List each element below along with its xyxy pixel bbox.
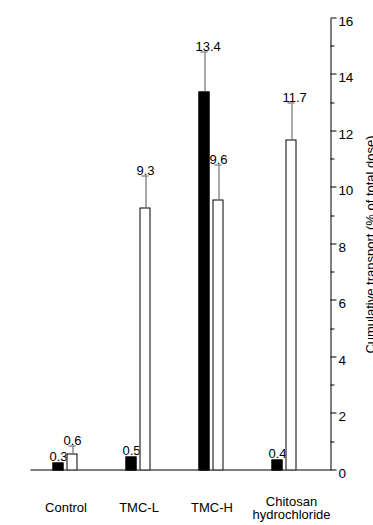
axis-tick-label: 14	[338, 70, 353, 85]
axis-tick	[330, 299, 336, 300]
axis-tick-label: 10	[338, 183, 353, 198]
error-bar	[204, 52, 205, 92]
axis-tick	[330, 73, 336, 74]
axis-minor-tick	[330, 271, 334, 272]
bar-open	[212, 199, 223, 470]
bar-value-label: 0.3	[49, 448, 67, 463]
axis-tick-label: 2	[338, 409, 345, 424]
axis-tick	[330, 469, 336, 470]
axis-minor-tick	[330, 384, 334, 385]
bar-value-label: 9.3	[136, 162, 154, 177]
figure-caption: Figure 16Effect of 0.5% (w/v) concentrat…	[347, 519, 371, 525]
figure-page: 0246810121416 Cumulative transport (% of…	[0, 0, 373, 525]
axis-tick-label: 0	[338, 465, 345, 480]
bar-filled	[125, 456, 136, 470]
bar-value-label: 13.4	[195, 38, 220, 53]
bar-value-label: 9.6	[209, 151, 227, 166]
error-bar	[218, 165, 219, 199]
value-axis-title: Cumulative transport (% of total dose)	[362, 18, 373, 470]
bar-group: 13.49.6TMC-H	[180, 8, 253, 470]
axis-minor-tick	[330, 328, 334, 329]
bar-value-label: 0.5	[122, 442, 140, 457]
bar-open	[66, 453, 77, 470]
axis-tick	[330, 186, 336, 187]
bar-value-label: 0.4	[268, 445, 286, 460]
error-bar	[291, 103, 292, 140]
axis-tick-label: 4	[338, 352, 345, 367]
axis-tick-label: 8	[338, 239, 345, 254]
axis-tick	[330, 130, 336, 131]
axis-tick	[330, 243, 336, 244]
axis-minor-tick	[330, 102, 334, 103]
bar-group: 0.30.6Control	[34, 8, 107, 470]
error-bar	[145, 176, 146, 207]
category-label: Chitosanhydrochloride	[236, 494, 346, 520]
axis-minor-tick	[330, 45, 334, 46]
bar-filled	[198, 91, 209, 470]
axis-minor-tick	[330, 158, 334, 159]
bar-chart-plot-area: 0246810121416 Cumulative transport (% of…	[0, 0, 373, 525]
axis-tick	[330, 17, 336, 18]
bar-value-label: 0.6	[63, 432, 81, 447]
axis-minor-tick	[330, 215, 334, 216]
axis-minor-tick	[330, 441, 334, 442]
axis-tick-label: 12	[338, 126, 353, 141]
bar-value-label: 11.7	[282, 89, 306, 104]
bar-group: 0.59.3TMC-L	[107, 8, 180, 470]
bar-group: 0.411.7Chitosanhydrochloride	[253, 8, 326, 470]
bar-open	[139, 207, 150, 470]
axis-tick	[330, 412, 336, 413]
axis-tick-label: 16	[338, 13, 353, 28]
rotated-figure-container: 0246810121416 Cumulative transport (% of…	[0, 0, 373, 525]
axis-tick	[330, 356, 336, 357]
axis-tick-label: 6	[338, 296, 345, 311]
bar-open	[285, 139, 296, 470]
